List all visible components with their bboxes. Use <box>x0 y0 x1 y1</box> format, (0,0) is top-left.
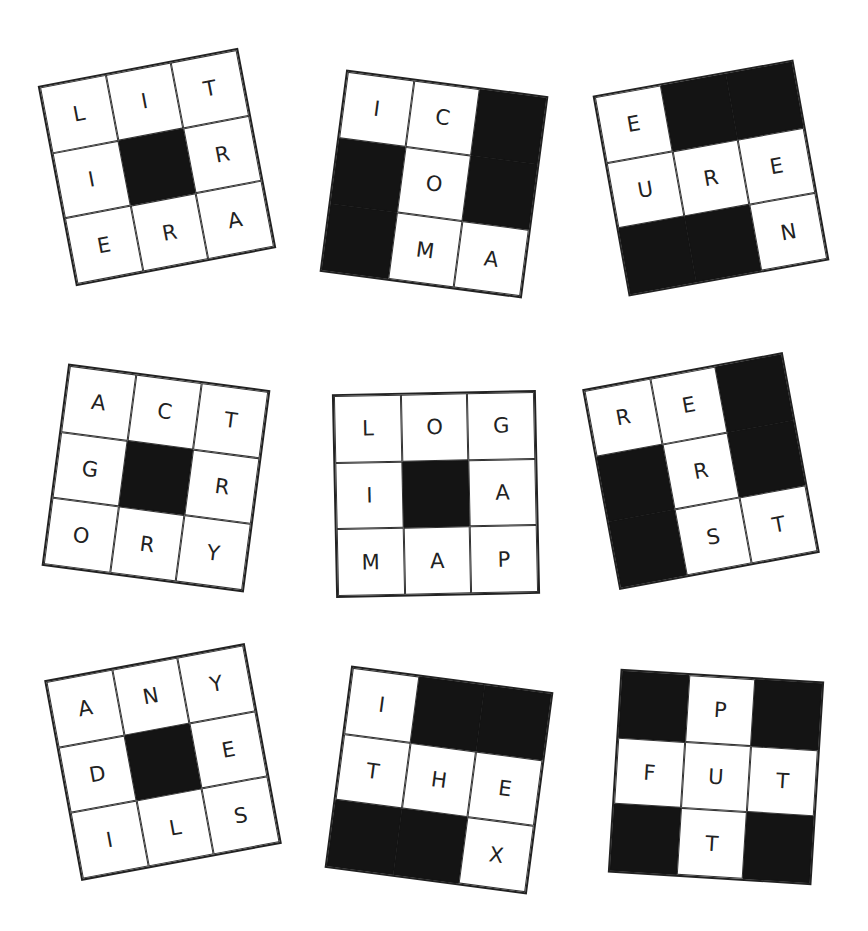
black-square <box>660 74 737 151</box>
letter-cell-r2c2[interactable]: R <box>662 432 740 510</box>
black-square <box>331 138 406 213</box>
letter-cell-r2c1[interactable]: I <box>53 140 131 218</box>
letter-cell-r3c3[interactable]: S <box>202 777 280 855</box>
black-square <box>610 804 681 875</box>
letter-cell-r2c2[interactable]: U <box>681 742 752 813</box>
letter-cell-r3c1[interactable]: O <box>44 498 119 573</box>
crossword-grid-4: ACTGRORY <box>42 364 271 593</box>
black-square <box>476 685 551 760</box>
letter-cell-r1c2[interactable]: E <box>650 367 728 445</box>
black-square <box>726 62 803 139</box>
letter-cell-r1c2[interactable]: C <box>405 81 480 156</box>
crossword-grid-2: ICOMA <box>320 70 549 299</box>
letter-cell-r3c3[interactable]: X <box>459 817 534 892</box>
black-square <box>410 677 485 752</box>
letter-cell-r2c2[interactable]: H <box>402 743 477 818</box>
crossword-grid-3: EUREN <box>593 60 830 297</box>
crossword-grid-8: ITHEX <box>325 666 554 895</box>
black-square <box>751 679 822 750</box>
letter-cell-r1c3[interactable]: G <box>467 392 535 460</box>
letter-cell-r1c1[interactable]: L <box>40 75 118 153</box>
black-square <box>393 809 468 884</box>
black-square <box>618 671 689 742</box>
letter-cell-r1c1[interactable]: I <box>344 668 419 743</box>
black-square <box>124 723 202 801</box>
black-square <box>609 510 687 588</box>
letter-cell-r2c2[interactable]: R <box>672 139 749 216</box>
letter-cell-r3c3[interactable]: N <box>750 193 827 270</box>
letter-cell-r3c1[interactable]: I <box>71 801 149 879</box>
black-square <box>743 812 814 883</box>
letter-cell-r1c3[interactable]: T <box>171 50 249 128</box>
letter-cell-r3c1[interactable]: E <box>65 206 143 284</box>
letter-cell-r1c2[interactable]: N <box>112 658 190 736</box>
black-square <box>684 205 761 282</box>
black-square <box>618 217 695 294</box>
black-square <box>119 441 194 516</box>
black-square <box>597 444 675 522</box>
letter-cell-r3c2[interactable]: M <box>388 213 463 288</box>
black-square <box>402 460 470 528</box>
letter-cell-r3c1[interactable]: M <box>337 528 405 596</box>
crossword-grid-9: PFUTT <box>608 669 824 885</box>
letter-cell-r3c3[interactable]: A <box>454 221 529 296</box>
letter-cell-r3c2[interactable]: A <box>403 527 471 595</box>
letter-cell-r3c2[interactable]: S <box>674 498 752 576</box>
letter-cell-r2c3[interactable]: R <box>183 116 261 194</box>
black-square <box>728 420 806 498</box>
letter-cell-r1c2[interactable]: I <box>106 63 184 141</box>
black-square <box>471 89 546 164</box>
black-square <box>463 155 538 230</box>
letter-cell-r2c1[interactable]: D <box>59 735 137 813</box>
letter-cell-r2c1[interactable]: I <box>335 461 403 529</box>
letter-cell-r1c2[interactable]: O <box>401 393 469 461</box>
letter-cell-r1c1[interactable]: L <box>334 395 402 463</box>
letter-cell-r3c2[interactable]: R <box>110 507 185 582</box>
letter-cell-r1c1[interactable]: I <box>339 72 414 147</box>
letter-cell-r2c1[interactable]: T <box>336 734 411 809</box>
letter-cell-r2c1[interactable]: F <box>614 737 685 808</box>
letter-cell-r1c1[interactable]: A <box>61 366 136 441</box>
black-square <box>716 354 794 432</box>
letter-cell-r2c1[interactable]: G <box>53 432 128 507</box>
letter-cell-r1c1[interactable]: R <box>584 379 662 457</box>
black-square <box>322 204 397 279</box>
crossword-grid-6: RERST <box>582 352 820 590</box>
letter-cell-r2c3[interactable]: E <box>190 711 268 789</box>
crossword-grid-5: LOGIAMAP <box>332 390 540 598</box>
letter-cell-r1c1[interactable]: E <box>595 85 672 162</box>
letter-cell-r3c3[interactable]: P <box>470 525 538 593</box>
letter-cell-r3c3[interactable]: T <box>740 486 818 564</box>
letter-cell-r3c2[interactable]: T <box>676 808 747 879</box>
letter-cell-r3c2[interactable]: R <box>130 193 208 271</box>
letter-cell-r3c2[interactable]: L <box>136 789 214 867</box>
letter-cell-r2c3[interactable]: E <box>468 751 543 826</box>
letter-cell-r2c1[interactable]: U <box>607 151 684 228</box>
letter-cell-r1c2[interactable]: P <box>685 675 756 746</box>
letter-cell-r2c3[interactable]: A <box>469 459 537 527</box>
letter-cell-r1c3[interactable]: Y <box>178 645 256 723</box>
letter-cell-r1c2[interactable]: C <box>127 375 202 450</box>
letter-cell-r2c3[interactable]: R <box>185 449 260 524</box>
black-square <box>327 800 402 875</box>
letter-cell-r2c2[interactable]: O <box>397 147 472 222</box>
crossword-grid-1: LITIRERA <box>38 48 277 287</box>
letter-cell-r3c3[interactable]: Y <box>176 515 251 590</box>
black-square <box>118 128 196 206</box>
letter-cell-r1c1[interactable]: A <box>46 670 124 748</box>
crossword-grid-7: ANYDEILS <box>44 643 282 881</box>
letter-cell-r2c3[interactable]: E <box>738 127 815 204</box>
letter-cell-r2c3[interactable]: T <box>747 746 818 817</box>
letter-cell-r1c3[interactable]: T <box>193 383 268 458</box>
letter-cell-r3c3[interactable]: A <box>196 181 274 259</box>
